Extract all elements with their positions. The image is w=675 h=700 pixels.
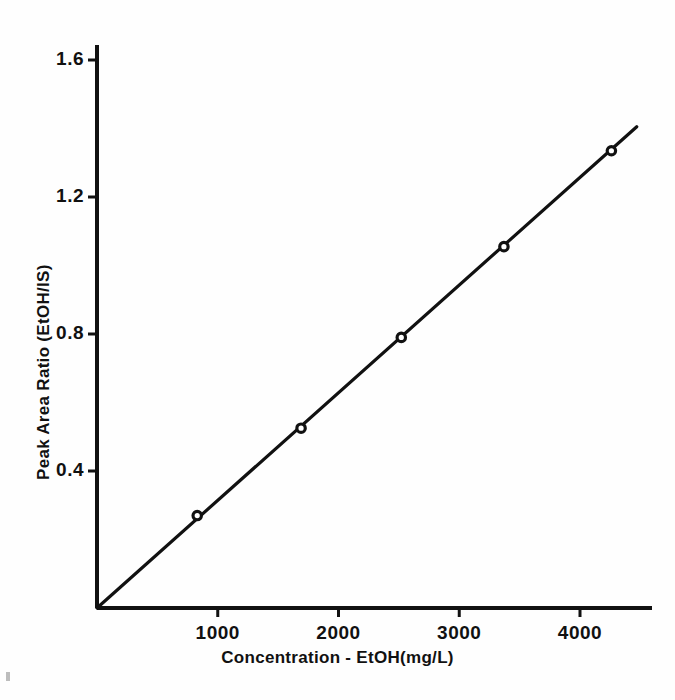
- y-tick-label: 0.8: [56, 322, 84, 344]
- x-tick-label: 1000: [173, 622, 263, 644]
- data-point-marker: [193, 511, 201, 519]
- x-tick-label: 3000: [414, 622, 504, 644]
- x-axis-title: Concentration - EtOH(mg/L): [0, 648, 675, 668]
- data-point-marker: [397, 333, 405, 341]
- y-tick-label: 0.4: [56, 459, 84, 481]
- data-point-marker: [500, 242, 508, 250]
- calibration-fit-line: [97, 127, 637, 608]
- data-point-marker: [607, 147, 615, 155]
- chart-canvas: [0, 0, 675, 700]
- chart-figure: 0.40.81.21.6 1000200030004000 Peak Area …: [0, 0, 675, 700]
- y-axis-title: Peak Area Ratio (EtOH/IS): [34, 264, 54, 480]
- data-point-marker: [297, 424, 305, 432]
- y-tick-label: 1.2: [56, 185, 84, 207]
- scan-artifact-speck: [6, 672, 10, 681]
- x-tick-label: 2000: [294, 622, 384, 644]
- y-tick-label: 1.6: [56, 48, 84, 70]
- x-tick-label: 4000: [535, 622, 625, 644]
